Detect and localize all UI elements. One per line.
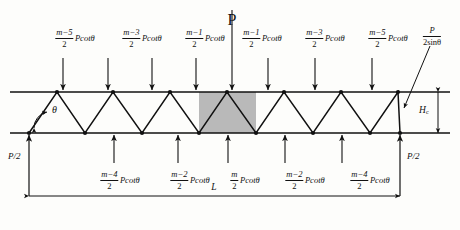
label-bottom-load-1: m−42Pcotθ: [100, 170, 139, 191]
denominator: 2: [350, 181, 368, 191]
numerator: m−5: [55, 28, 73, 39]
unit: Pcotθ: [388, 34, 408, 43]
depth-subscript: c: [426, 109, 429, 115]
label-top-load-4: m−12Pcotθ: [242, 28, 281, 49]
numerator: P: [423, 26, 441, 37]
label-reaction-left: P/2: [8, 152, 21, 161]
unit: Pcotθ: [120, 176, 140, 185]
label-angle-theta: θ: [52, 105, 57, 115]
label-top-load-5: m−32Pcotθ: [305, 28, 344, 49]
label-depth-Hc: Hc: [419, 106, 429, 116]
label-top-load-6: m−52Pcotθ: [368, 28, 407, 49]
label-bottom-load-2: m−22Pcotθ: [170, 170, 209, 191]
denominator: 2: [185, 39, 203, 49]
angle-arc-theta: [34, 112, 47, 128]
numerator: m−1: [242, 28, 260, 39]
numerator: m−5: [368, 28, 386, 39]
denominator: 2: [55, 39, 73, 49]
numerator: m: [230, 170, 238, 181]
leader-line-diagonal-force: [404, 46, 430, 108]
label-bottom-load-4: m−22Pcotθ: [285, 170, 324, 191]
numerator: m−3: [122, 28, 140, 39]
unit: Pcotθ: [305, 176, 325, 185]
top-load-arrows: [63, 58, 372, 90]
unit: Pcotθ: [190, 176, 210, 185]
label-diagonal-force: P2sinθ: [423, 26, 441, 47]
label-span-L: L: [211, 183, 216, 193]
denominator: 2: [230, 181, 238, 191]
bottom-load-arrows: [114, 135, 342, 163]
denominator: 2: [285, 181, 303, 191]
depth-symbol: H: [419, 105, 426, 115]
label-top-load-3: m−12Pcotθ: [185, 28, 224, 49]
label-center-load-P: P: [228, 12, 237, 28]
label-bottom-load-5: m−42Pcotθ: [350, 170, 389, 191]
label-reaction-right: P/2: [407, 152, 420, 161]
unit: Pcotθ: [262, 34, 282, 43]
denominator: 2sinθ: [423, 37, 441, 47]
unit: Pcotθ: [205, 34, 225, 43]
denominator: 2: [122, 39, 140, 49]
unit: Pcotθ: [75, 34, 95, 43]
denominator: 2: [170, 181, 188, 191]
numerator: m−1: [185, 28, 203, 39]
highlighted-panel: [199, 92, 256, 133]
numerator: m−4: [350, 170, 368, 181]
unit: Pcotθ: [240, 176, 260, 185]
label-top-load-1: m−52Pcotθ: [55, 28, 94, 49]
truss-load-diagram: P m−52Pcotθ m−32Pcotθ m−12Pcotθ m−12Pcot…: [0, 0, 460, 230]
numerator: m−3: [305, 28, 323, 39]
denominator: 2: [368, 39, 386, 49]
denominator: 2: [305, 39, 323, 49]
unit: Pcotθ: [325, 34, 345, 43]
numerator: m−2: [170, 170, 188, 181]
numerator: m−4: [100, 170, 118, 181]
label-bottom-load-3: m2Pcotθ: [230, 170, 259, 191]
denominator: 2: [242, 39, 260, 49]
unit: Pcotθ: [370, 176, 390, 185]
denominator: 2: [100, 181, 118, 191]
label-top-load-2: m−32Pcotθ: [122, 28, 161, 49]
numerator: m−2: [285, 170, 303, 181]
unit: Pcotθ: [142, 34, 162, 43]
